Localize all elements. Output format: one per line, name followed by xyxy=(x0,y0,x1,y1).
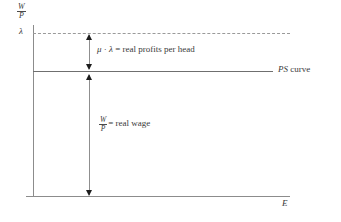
x-axis-line xyxy=(26,196,290,197)
arrowhead-down-icon xyxy=(86,64,92,70)
diagram-canvas: W P λ E μ · λ = real profits per head WP… xyxy=(0,0,341,222)
ps-curve-label-abbr: PS xyxy=(278,64,288,74)
profits-annotation: μ · λ = real profits per head xyxy=(97,45,195,55)
lambda-tick-label: λ xyxy=(19,27,23,36)
arrowhead-up-icon xyxy=(86,74,92,80)
x-axis-label: E xyxy=(282,199,288,208)
real-wage-denominator: P xyxy=(99,124,107,133)
real-wage-text: real wage xyxy=(116,118,151,128)
y-axis-label: W P xyxy=(17,3,26,20)
real-wage-equals: = xyxy=(108,118,115,128)
real-wage-fraction: WP xyxy=(99,116,107,132)
ps-curve-line xyxy=(33,71,273,72)
y-axis-numerator: W xyxy=(17,3,26,11)
y-axis-fraction: W P xyxy=(17,3,26,20)
profits-operator: · xyxy=(102,44,110,54)
arrowhead-up-icon xyxy=(86,34,92,40)
lambda-level-line xyxy=(33,33,290,34)
profits-equals: = xyxy=(113,44,123,54)
real-wage-numerator: W xyxy=(99,116,107,124)
ps-curve-label-rest: curve xyxy=(288,64,310,74)
ps-curve-label: PS curve xyxy=(278,65,310,75)
y-axis-line xyxy=(33,25,34,197)
profits-text: real profits per head xyxy=(123,44,195,54)
real-wage-annotation: WP= real wage xyxy=(99,116,150,132)
arrowhead-down-icon xyxy=(86,190,92,196)
real-wage-measure-arrow xyxy=(89,75,90,195)
y-axis-denominator: P xyxy=(17,11,26,20)
profits-measure-arrow xyxy=(89,35,90,69)
